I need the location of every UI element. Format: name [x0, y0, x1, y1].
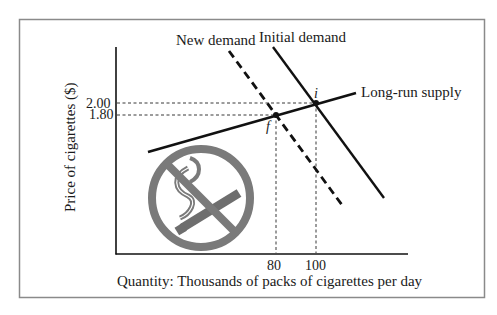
x-axis-label: Quantity: Thousands of packs of cigarett… [117, 273, 423, 289]
long-run-supply-label: Long-run supply [361, 84, 462, 100]
y-tick-1-80: 1.80 [89, 107, 114, 122]
x-tick-80: 80 [267, 258, 281, 273]
y-axis-label: Price of cigarettes ($) [62, 82, 79, 212]
chart-frame [20, 20, 485, 298]
chart: New demand Initial demand Long-run suppl… [0, 0, 497, 315]
point-i-label: i [314, 86, 318, 101]
initial-demand-label: Initial demand [259, 29, 347, 45]
new-demand-label: New demand [176, 32, 256, 48]
equilibrium-point-f [273, 112, 279, 118]
x-tick-100: 100 [305, 258, 326, 273]
